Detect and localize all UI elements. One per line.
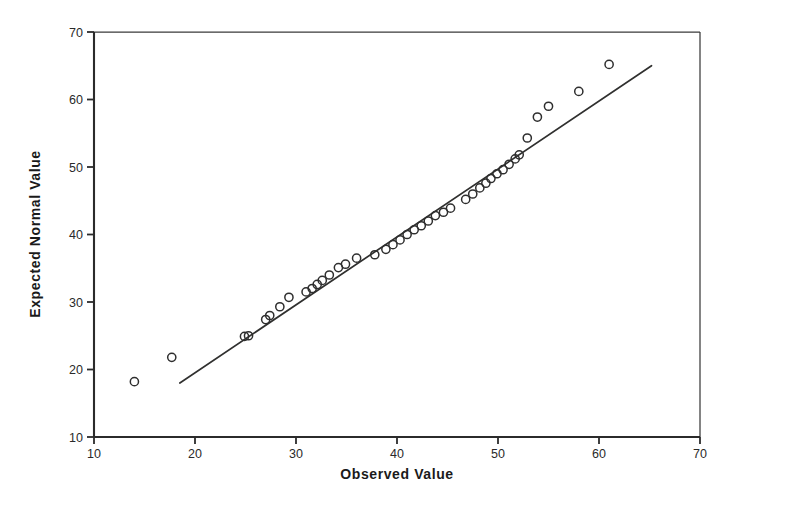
data-point-marker: [276, 303, 284, 311]
x-tick-label: 40: [390, 447, 404, 461]
y-tick-label: 20: [69, 363, 83, 377]
x-tick-label: 20: [188, 447, 202, 461]
data-point-marker: [396, 236, 404, 244]
y-axis-ticks: 10203040506070: [69, 26, 94, 445]
x-tick-label: 10: [87, 447, 101, 461]
normal-reference-line: [180, 66, 652, 383]
data-point-marker: [523, 134, 531, 142]
y-axis-label: Expected Normal Value: [27, 150, 43, 317]
data-point-marker: [469, 190, 477, 198]
x-tick-label: 60: [592, 447, 606, 461]
scatter-points-group: [130, 60, 613, 385]
data-point-marker: [605, 60, 613, 68]
data-point-marker: [285, 293, 293, 301]
data-point-marker: [168, 353, 176, 361]
y-tick-label: 30: [69, 296, 83, 310]
data-point-marker: [462, 195, 470, 203]
data-point-marker: [130, 378, 138, 386]
data-point-marker: [575, 87, 583, 95]
x-tick-label: 50: [491, 447, 505, 461]
x-axis-ticks: 10203040506070: [87, 437, 707, 461]
data-point-marker: [533, 113, 541, 121]
data-point-marker: [341, 260, 349, 268]
y-tick-label: 60: [69, 93, 83, 107]
data-point-marker: [353, 254, 361, 262]
y-tick-label: 10: [69, 431, 83, 445]
x-tick-label: 70: [693, 447, 707, 461]
x-axis-label: Observed Value: [340, 466, 453, 482]
data-point-marker: [446, 204, 454, 212]
qq-plot-figure: 10203040506070 10203040506070 Observed V…: [0, 0, 806, 505]
y-tick-label: 50: [69, 161, 83, 175]
data-point-marker: [544, 102, 552, 110]
data-point-marker: [482, 179, 490, 187]
y-tick-label: 40: [69, 228, 83, 242]
x-tick-label: 30: [289, 447, 303, 461]
data-point-marker: [424, 217, 432, 225]
data-point-marker: [325, 271, 333, 279]
data-point-marker: [431, 212, 439, 220]
y-tick-label: 70: [69, 26, 83, 40]
